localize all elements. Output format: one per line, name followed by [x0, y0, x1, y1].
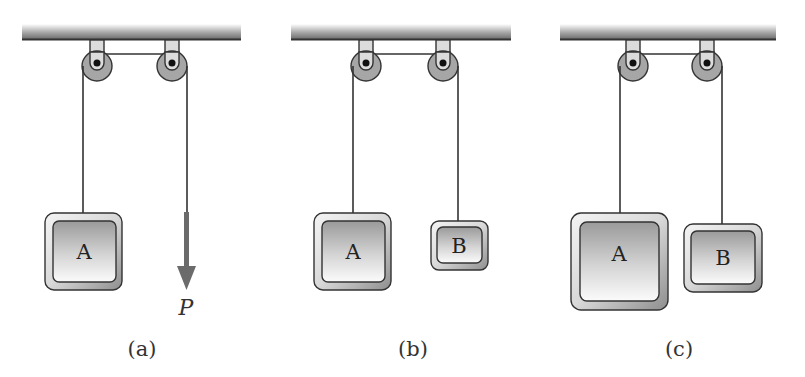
block-label: B [451, 234, 466, 258]
panel-caption: (a) [128, 337, 157, 361]
panel-c: A B (c) [560, 24, 776, 361]
block-label: A [75, 240, 92, 264]
pulley-left [82, 40, 112, 81]
panel-b: A B (b) [291, 24, 511, 361]
force-label: P [178, 295, 195, 320]
ceiling [560, 24, 776, 40]
ceiling [22, 24, 241, 40]
block-b: B [684, 224, 762, 292]
ceiling [291, 24, 511, 40]
block-a: A [571, 213, 668, 310]
pulley-right [692, 40, 722, 81]
block-a: A [45, 213, 122, 290]
pulley-right [157, 40, 187, 81]
panel-caption: (b) [398, 337, 428, 361]
block-b: B [431, 221, 488, 270]
panel-a: A P (a) [22, 24, 241, 361]
block-a: A [314, 213, 391, 290]
block-label: A [344, 240, 361, 264]
pulley-right [428, 40, 458, 81]
panel-caption: (c) [665, 337, 693, 361]
pulley-diagram: A P (a) A [0, 0, 805, 377]
block-label: B [715, 246, 730, 270]
block-label: A [610, 242, 627, 266]
pulley-left [618, 40, 648, 81]
pulley-left [351, 40, 381, 81]
force-arrow-p [177, 212, 196, 290]
